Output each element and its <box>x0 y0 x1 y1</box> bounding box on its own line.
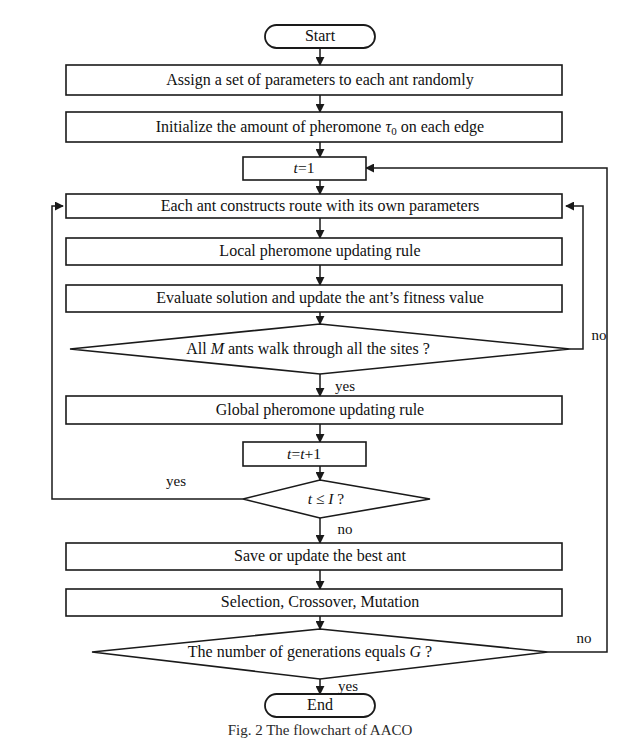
t-init-rest: =1 <box>298 159 315 176</box>
node-save-best-label: Save or update the best ant <box>234 547 407 565</box>
node-generations-decision-label: The number of generations equals G ? <box>188 643 432 661</box>
all-ants-text-post: ants walk through all the sites ? <box>224 340 430 358</box>
node-assign-params-label: Assign a set of parameters to each ant r… <box>166 71 473 89</box>
figure-caption: Fig. 2 The flowchart of AACO <box>0 722 640 739</box>
t-inc-mid: = <box>291 445 300 462</box>
generations-text-pre: The number of generations equals <box>188 643 410 661</box>
node-start-label: Start <box>305 27 336 44</box>
node-global-update-label: Global pheromone updating rule <box>216 401 424 419</box>
node-all-ants-decision-label: All M ants walk through all the sites ? <box>186 340 430 358</box>
edge-label-tlei-yes: yes <box>166 473 186 489</box>
t-le-I-mid: ≤ <box>312 490 328 507</box>
edge-label-ants-yes: yes <box>335 378 355 394</box>
init-pheromone-text-post: on each edge <box>397 118 485 136</box>
edge-label-ants-no: no <box>592 327 607 343</box>
all-ants-text-pre: All <box>186 340 210 357</box>
node-local-update-label: Local pheromone updating rule <box>219 242 420 260</box>
t-le-I-post: ? <box>333 490 344 507</box>
node-init-pheromone-label: Initialize the amount of pheromone τ0 on… <box>156 118 484 137</box>
init-pheromone-text-pre: Initialize the amount of pheromone <box>156 118 386 136</box>
t-inc-rest: +1 <box>304 445 321 462</box>
edge-label-generations-yes: yes <box>338 678 358 694</box>
connector-ants-no-loop <box>566 206 583 349</box>
generations-text-post: ? <box>421 643 432 660</box>
edge-label-tlei-no: no <box>338 521 353 537</box>
flowchart-diagram: Start Assign a set of parameters to each… <box>0 0 640 742</box>
node-genetic-ops-label: Selection, Crossover, Mutation <box>221 593 419 610</box>
edge-label-generations-no: no <box>577 630 592 646</box>
node-evaluate-label: Evaluate solution and update the ant’s f… <box>156 289 483 307</box>
node-end-label: End <box>307 696 333 713</box>
node-construct-route-label: Each ant constructs route with its own p… <box>161 197 480 215</box>
node-t-le-I-decision-label: t ≤ I ? <box>308 490 345 507</box>
figure-root: Start Assign a set of parameters to each… <box>0 0 640 742</box>
generations-var-G: G <box>410 643 422 660</box>
node-t-init-label: t=1 <box>294 159 315 176</box>
node-t-increment-label: t=t+1 <box>287 445 321 462</box>
